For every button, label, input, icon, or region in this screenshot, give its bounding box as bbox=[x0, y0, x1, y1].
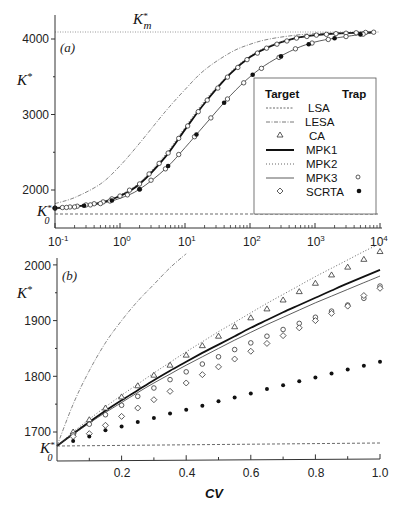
marker-ca-target-b bbox=[329, 272, 335, 277]
k0-label-a: K*0 bbox=[36, 203, 52, 226]
marker-mpk3-trap-a bbox=[177, 152, 181, 156]
legend-header-target: Target bbox=[265, 88, 299, 100]
marker-scrta-trap-a bbox=[358, 32, 363, 37]
marker-ca-target-b bbox=[183, 352, 189, 357]
marker-scrta-trap-b bbox=[362, 364, 366, 368]
marker-scrta-trap-b bbox=[184, 408, 188, 412]
marker-mpk3-trap-b bbox=[249, 341, 254, 346]
marker-scrta-target-a bbox=[285, 39, 289, 43]
marker-ca-target-b bbox=[199, 343, 205, 348]
legend: Target Trap LSA LESA CA MPK1 MPK2 MPK3 S… bbox=[254, 78, 376, 214]
marker-scrta-target-a bbox=[225, 75, 229, 79]
marker-mpk3-trap-a bbox=[344, 34, 348, 38]
legend-label-lesa: LESA bbox=[305, 116, 335, 128]
xtick-labels-a: 10-1 100 101 102 103 104 bbox=[48, 234, 388, 249]
marker-scrta-target-a bbox=[372, 30, 376, 34]
marker-mpk3-trap-b bbox=[265, 334, 270, 339]
y-axis-label-b: K* bbox=[16, 284, 32, 301]
marker-scrta-trap-a bbox=[194, 132, 199, 137]
marker-mpk3-trap-a bbox=[88, 203, 92, 207]
xtick-label: 101 bbox=[178, 234, 196, 249]
marker-scrta-trap-a bbox=[110, 198, 115, 203]
marker-ca-target-b bbox=[167, 362, 173, 367]
marker-ca-target-b bbox=[361, 256, 367, 261]
marker-mpk3-trap-a bbox=[293, 47, 297, 51]
marker-mpk3-trap-b bbox=[216, 355, 221, 360]
marker-ca-target-b bbox=[151, 372, 157, 377]
marker-mpk3-trap-a bbox=[209, 116, 213, 120]
marker-scrta-target-a bbox=[196, 109, 200, 113]
marker-ca-target-b bbox=[280, 297, 286, 302]
xtick-label: 100 bbox=[113, 234, 131, 249]
panel-label-a: (a) bbox=[60, 40, 75, 55]
marker-scrta-trap-b bbox=[152, 416, 156, 420]
marker-scrta-target-b bbox=[119, 413, 125, 419]
panel-label-b: (b) bbox=[62, 268, 77, 283]
marker-scrta-target-a bbox=[137, 182, 141, 186]
marker-mpk3-trap-b bbox=[232, 347, 237, 352]
legend-label-mpk2: MPK2 bbox=[306, 158, 337, 170]
marker-scrta-trap-b bbox=[330, 372, 334, 376]
marker-ca-target-b bbox=[345, 264, 351, 269]
xtick-label: 103 bbox=[307, 234, 325, 249]
marker-scrta-target-a bbox=[216, 86, 220, 90]
marker-scrta-trap-b bbox=[103, 428, 107, 432]
marker-mpk3-trap-b bbox=[168, 377, 173, 382]
marker-scrta-trap-b bbox=[265, 387, 269, 391]
marker-ca-target-b bbox=[312, 280, 318, 285]
xtick-label: 0.4 bbox=[179, 466, 196, 480]
marker-mpk3-trap-b bbox=[200, 362, 205, 367]
y-axis-label-a: K* bbox=[16, 71, 32, 88]
legend-scrta-trap-dot-icon bbox=[357, 189, 362, 194]
x-axis-label: CV bbox=[205, 486, 224, 501]
marker-scrta-trap-a bbox=[82, 203, 87, 208]
ytick-label: 2000 bbox=[24, 259, 51, 273]
marker-scrta-trap-b bbox=[217, 399, 221, 403]
xtick-label: 0.6 bbox=[243, 466, 260, 480]
marker-scrta-target-a bbox=[294, 36, 298, 40]
marker-scrta-trap-a bbox=[222, 100, 227, 105]
marker-scrta-target-b bbox=[232, 356, 238, 362]
marker-scrta-target-b bbox=[102, 422, 108, 428]
marker-mpk3-trap-a bbox=[225, 97, 229, 101]
marker-mpk3-trap-b bbox=[119, 403, 124, 408]
marker-mpk3-trap-a bbox=[98, 201, 102, 205]
xtick-label: 10-1 bbox=[48, 234, 69, 249]
xtick-label: 0.8 bbox=[308, 466, 325, 480]
marker-scrta-trap-b bbox=[297, 379, 301, 383]
marker-scrta-trap-a bbox=[279, 54, 284, 59]
marker-mpk3-trap-b bbox=[87, 422, 92, 427]
marker-ca-target-b bbox=[232, 324, 238, 329]
marker-scrta-target-a bbox=[177, 136, 181, 140]
marker-mpk3-trap-a bbox=[149, 178, 153, 182]
marker-scrta-target-a bbox=[245, 57, 249, 61]
legend-label-lsa: LSA bbox=[308, 102, 330, 114]
marker-scrta-target-a bbox=[185, 124, 189, 128]
marker-ca-target-b bbox=[296, 289, 302, 294]
marker-scrta-target-b bbox=[280, 333, 286, 339]
ytick-label: 1800 bbox=[24, 370, 51, 384]
marker-scrta-target-a bbox=[127, 188, 131, 192]
marker-scrta-trap-b bbox=[87, 434, 91, 438]
marker-mpk3-trap-a bbox=[259, 66, 263, 70]
marker-scrta-target-a bbox=[275, 42, 279, 46]
marker-scrta-target-b bbox=[216, 364, 222, 370]
marker-ca-target-b bbox=[264, 306, 270, 311]
marker-scrta-target-b bbox=[151, 397, 157, 403]
marker-mpk3-trap-a bbox=[125, 193, 129, 197]
axis-ticks-b bbox=[53, 265, 380, 461]
marker-scrta-trap-b bbox=[200, 404, 204, 408]
marker-scrta-target-a bbox=[314, 33, 318, 37]
marker-scrta-target-b bbox=[199, 372, 205, 378]
marker-scrta-target-a bbox=[166, 151, 170, 155]
marker-ca-target-b bbox=[86, 417, 92, 422]
xtick-label: 0.2 bbox=[114, 466, 131, 480]
marker-scrta-trap-b bbox=[136, 420, 140, 424]
marker-ca-target-b bbox=[216, 333, 222, 338]
marker-scrta-trap-a bbox=[250, 72, 255, 77]
legend-header-trap: Trap bbox=[342, 88, 366, 100]
km-label: K*m bbox=[132, 11, 152, 31]
xtick-label: 1.0 bbox=[372, 466, 389, 480]
marker-mpk3-trap-b bbox=[184, 370, 189, 375]
marker-scrta-target-b bbox=[135, 405, 141, 411]
